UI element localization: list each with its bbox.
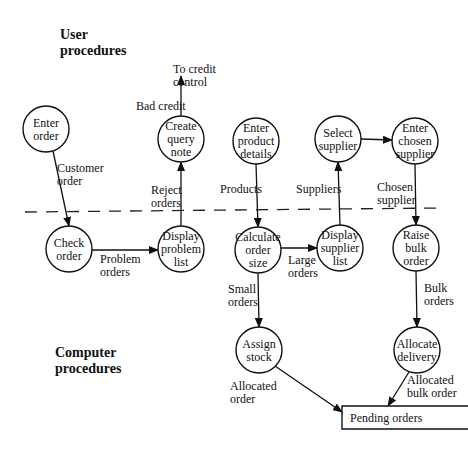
flow-label: Bad credit — [136, 99, 186, 113]
flow-problem-orders: Problemorders — [92, 250, 158, 279]
process-label: Checkorder — [54, 236, 85, 263]
flow-bulk-orders: Bulkorders — [416, 271, 454, 327]
process-assign-stock: Assignstock — [236, 327, 282, 373]
process-label: Enterorder — [33, 116, 59, 143]
flow-label: To creditcontrol — [173, 62, 216, 89]
section-label-user: Userprocedures — [60, 27, 127, 58]
flow-arrow — [388, 372, 409, 406]
flow-label: Allocatedorder — [230, 379, 277, 406]
process-enter-chosen-supplier: Enterchosensupplier — [392, 118, 438, 164]
flow-label: Bulkorders — [424, 281, 454, 308]
flow-allocated-bulk-order: Allocatedbulk order — [388, 372, 457, 406]
process-select-supplier: Selectsupplier — [315, 116, 361, 162]
process-enter-order: Enterorder — [23, 106, 69, 152]
flow-chosen-supplier-flow: Chosensupplier — [377, 164, 416, 225]
process-calculate-order-size: Calculateordersize — [235, 227, 281, 273]
flow-small-orders: Smallorders — [228, 273, 259, 327]
process-display-supplier-list: Displaysupplierlist — [317, 225, 363, 271]
flow-products: Products — [220, 164, 262, 227]
flow-suppliers: Suppliers — [296, 162, 342, 225]
flow-arrow — [258, 273, 259, 327]
data-flow-diagram: Bad creditTo creditcontrolCustomerorderR… — [0, 0, 468, 453]
process-allocate-delivery: Allocatedelivery — [394, 327, 440, 373]
flow-arrow — [361, 139, 392, 140]
process-label: Raisebulkorder — [403, 228, 430, 268]
process-label: Selectsupplier — [319, 126, 358, 153]
boundary-dashed-line — [25, 208, 440, 212]
flow-large-orders: Largeorders — [281, 248, 318, 280]
flow-label: Smallorders — [228, 282, 258, 309]
flow-arrow — [416, 271, 417, 327]
process-raise-bulk-order: Raisebulkorder — [393, 225, 439, 271]
process-label: Assignstock — [242, 337, 275, 364]
process-display-problem-list: Displayproblemlist — [158, 226, 204, 272]
flow-arrow — [275, 366, 342, 412]
flow-label: Chosensupplier — [377, 180, 416, 207]
flow-reject-orders: Rejectorders — [151, 162, 182, 226]
flow-label: Allocatedbulk order — [407, 373, 457, 400]
flow-selected-supplier-flow — [361, 139, 392, 140]
flow-label: Products — [220, 182, 262, 196]
process-enter-product-details: Enterproductdetails — [233, 118, 279, 164]
flow-label: Suppliers — [296, 182, 342, 196]
process-check-order: Checkorder — [46, 226, 92, 272]
data-store: Pending orders — [342, 406, 468, 429]
user-computer-boundary — [25, 208, 440, 212]
store-pending-orders: Pending orders — [342, 406, 468, 429]
section-labels: UserproceduresComputerprocedures — [55, 27, 127, 376]
flow-customer-order: Customerorder — [53, 151, 104, 226]
process-create-query-note: Createquerynote — [158, 116, 204, 162]
process-label: Allocatedelivery — [397, 337, 438, 364]
store-label: Pending orders — [350, 411, 423, 425]
section-label-computer: Computerprocedures — [55, 345, 122, 376]
process-nodes: EnterorderCreatequerynoteEnterproductdet… — [23, 106, 440, 373]
flow-allocated-order: Allocatedorder — [230, 366, 342, 412]
flow-label: Largeorders — [288, 253, 318, 280]
flow-label: Customerorder — [57, 161, 104, 188]
flow-to-credit-control: To creditcontrol — [173, 62, 216, 89]
flow-label: Problemorders — [100, 252, 141, 279]
flow-label: Rejectorders — [151, 183, 182, 210]
